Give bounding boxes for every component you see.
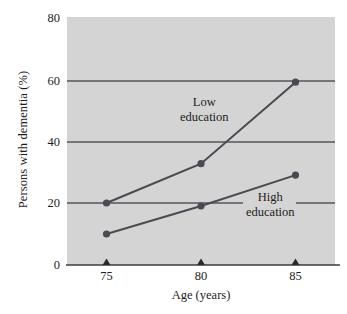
series-annotation-low-line1: Low xyxy=(180,95,229,110)
dementia-by-age-chart: Persons with dementia (%) 80 60 40 20 0 … xyxy=(0,0,347,314)
x-axis-title: Age (years) xyxy=(66,288,336,303)
plot-background xyxy=(67,17,335,265)
data-point-low-75 xyxy=(103,199,110,206)
y-tick-label-60: 60 xyxy=(20,75,60,88)
y-tick-label-20: 20 xyxy=(20,197,60,210)
series-annotation-high-line1: High xyxy=(246,190,295,205)
data-point-high-75 xyxy=(103,230,110,237)
data-point-low-80 xyxy=(197,160,204,167)
series-annotation-low-line2: education xyxy=(180,110,229,125)
y-tick-label-80: 80 xyxy=(20,12,60,25)
x-tick-label-85: 85 xyxy=(274,270,318,283)
series-annotation-high-line2: education xyxy=(246,205,295,220)
series-annotation-high-education: High education xyxy=(246,190,295,220)
y-tick-label-0: 0 xyxy=(20,259,60,272)
y-tick-label-40: 40 xyxy=(20,136,60,149)
x-tick-label-80: 80 xyxy=(179,270,223,283)
data-point-high-85 xyxy=(292,172,299,179)
data-point-low-85 xyxy=(292,79,299,86)
x-tick-label-75: 75 xyxy=(85,270,129,283)
data-point-high-80 xyxy=(197,202,204,209)
series-annotation-low-education: Low education xyxy=(180,95,229,125)
